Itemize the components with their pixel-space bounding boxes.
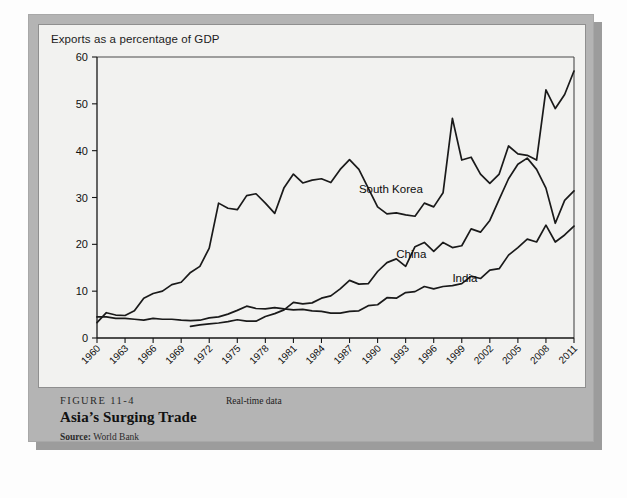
figure-frame: Exports as a percentage of GDP 010203040… (28, 14, 594, 442)
y-axis-tick-label: 10 (76, 285, 88, 297)
y-axis-tick-label: 0 (82, 332, 88, 344)
x-axis-tick-label: 2011 (556, 342, 579, 365)
x-axis-tick-label: 1999 (444, 342, 468, 366)
figure-number: FIGURE 11-4 (60, 395, 135, 406)
figure-page: Exports as a percentage of GDP 010203040… (0, 0, 627, 498)
x-axis-tick-label: 1993 (388, 342, 412, 366)
x-axis-tick-label: 1963 (107, 342, 131, 366)
line-chart-plot: 0102030405060196019631966196919721975197… (39, 25, 585, 387)
y-axis-tick-label: 30 (76, 192, 88, 204)
x-axis-tick-label: 1981 (275, 342, 299, 366)
y-axis-tick-label: 40 (76, 145, 88, 157)
figure-source-value: World Bank (93, 432, 139, 442)
x-axis-tick-label: 1966 (135, 342, 159, 366)
x-axis-tick-label: 1990 (359, 342, 383, 366)
y-axis-tick-label: 60 (76, 51, 88, 63)
x-axis-tick-label: 1972 (191, 342, 215, 366)
figure-caption: FIGURE 11-4 Asia’s Surging Trade Source:… (38, 393, 586, 435)
series-label-india: India (452, 272, 478, 284)
x-axis-tick-label: 1969 (163, 342, 187, 366)
series-line-india (97, 225, 574, 321)
x-axis-tick-label: 1975 (219, 342, 243, 366)
x-axis-tick-label: 2008 (528, 342, 552, 366)
x-axis-tick-label: 1984 (303, 342, 327, 366)
figure-source-label: Source: (60, 432, 91, 442)
x-axis-tick-label: 1978 (247, 342, 271, 366)
y-axis-tick-label: 50 (76, 98, 88, 110)
x-axis-tick-label: 1996 (416, 342, 440, 366)
figure-title: Asia’s Surging Trade (60, 409, 197, 426)
chart-panel: Exports as a percentage of GDP 010203040… (38, 24, 586, 388)
x-axis-tick-label: 2005 (500, 342, 524, 366)
x-axis-tick-label: 2002 (472, 342, 496, 366)
y-axis-tick-label: 20 (76, 238, 88, 250)
x-axis-tick-label: 1987 (331, 342, 355, 366)
x-axis-tick-label: 1960 (79, 342, 103, 366)
realtime-data-note: Real-time data (226, 396, 282, 406)
series-label-china: China (396, 248, 427, 260)
figure-source: Source: World Bank (60, 432, 139, 442)
series-label-south-korea: South Korea (359, 183, 424, 195)
series-line-south-korea (97, 71, 574, 322)
